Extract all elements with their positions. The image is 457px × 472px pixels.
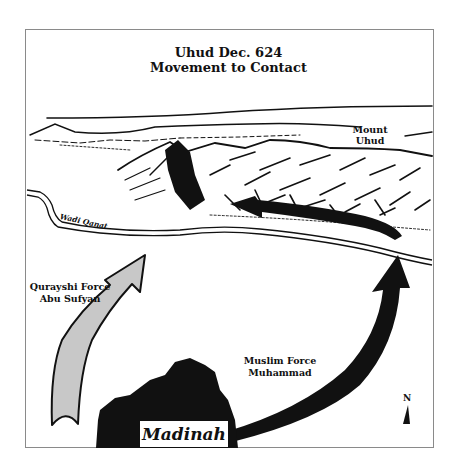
title-line-1: Uhud Dec. 624	[0, 45, 457, 60]
muslim-force-label: Muslim Force Muhammad	[230, 355, 330, 379]
north-label: N	[400, 393, 414, 403]
mount-label-line-1: Mount	[335, 124, 405, 135]
muslim-label-line-2: Muhammad	[230, 367, 330, 379]
north-arrow-icon	[403, 405, 410, 424]
dark-peak	[165, 140, 205, 210]
quraysh-label-line-1: Qurayshi Force	[20, 281, 120, 293]
mount-uhud-label: Mount Uhud	[335, 124, 405, 146]
quraysh-label-line-2: Abu Sufyan	[20, 293, 120, 305]
mount-label-line-2: Uhud	[335, 135, 405, 146]
madinah-label: Madinah	[140, 424, 228, 444]
title-line-2: Movement to Contact	[0, 60, 457, 75]
muslim-arrow	[225, 255, 410, 442]
quraysh-force-label: Qurayshi Force Abu Sufyan	[20, 281, 120, 305]
map-title: Uhud Dec. 624 Movement to Contact	[0, 45, 457, 75]
muslim-label-line-1: Muslim Force	[230, 355, 330, 367]
